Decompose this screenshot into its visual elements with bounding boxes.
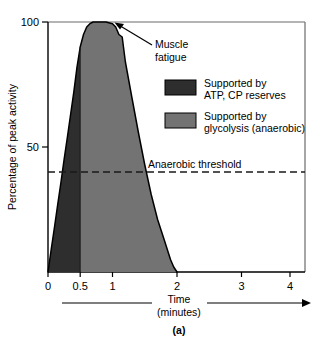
y-axis-ticks: 50 100: [21, 16, 48, 153]
muscle-fatigue-label-line2: fatigue: [155, 51, 187, 63]
y-axis-title: Percentage of peak activity: [6, 83, 18, 210]
x-axis-title: Time: [168, 293, 191, 305]
x-tick-label-4: 4: [287, 280, 293, 292]
x-tick-label-0: 0: [45, 280, 51, 292]
chart-legend: Supported by ATP, CP reserves Supported …: [165, 77, 305, 134]
x-axis-title-group: Time (minutes): [62, 293, 311, 318]
legend-label-glycolysis-line1: Supported by: [204, 110, 267, 122]
x-tick-label-1: 1: [109, 280, 115, 292]
legend-item-glycolysis[interactable]: Supported by glycolysis (anaerobic): [165, 110, 305, 134]
legend-swatch-atp-cp: [165, 80, 196, 95]
y-tick-label-100: 100: [21, 16, 39, 28]
x-axis-right-arrowhead: [302, 299, 311, 307]
x-axis-title-units: (minutes): [157, 306, 201, 318]
x-axis-ticks: 0 0.5 1 2 3 4: [45, 272, 293, 292]
muscle-fatigue-annotation: Muscle fatigue: [115, 23, 189, 64]
legend-label-glycolysis-line2: glycolysis (anaerobic): [204, 122, 305, 134]
legend-label-atp-cp-line2: ATP, CP reserves: [204, 89, 286, 101]
figure-caption: (a): [173, 324, 186, 336]
x-tick-label-3: 3: [238, 280, 244, 292]
legend-item-atp-cp[interactable]: Supported by ATP, CP reserves: [165, 77, 286, 101]
anaerobic-threshold-label: Anaerobic threshold: [148, 158, 242, 170]
y-tick-label-50: 50: [27, 141, 39, 153]
x-tick-label-0-5: 0.5: [73, 280, 88, 292]
legend-label-atp-cp-line1: Supported by: [204, 77, 267, 89]
muscle-fatigue-leader-line: [120, 26, 153, 46]
chart-svg: 50 100 Anaerobic threshold Muscle fatigu…: [0, 0, 325, 341]
muscle-energy-systems-figure: 50 100 Anaerobic threshold Muscle fatigu…: [0, 0, 325, 341]
muscle-fatigue-label-line1: Muscle: [155, 38, 188, 50]
legend-swatch-glycolysis: [165, 113, 196, 128]
x-tick-label-2: 2: [174, 280, 180, 292]
